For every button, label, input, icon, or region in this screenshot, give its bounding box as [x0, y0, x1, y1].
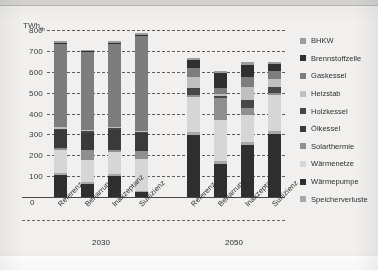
- y-tick-label-500: 500: [29, 88, 43, 97]
- bar-inakzeptanz-2050: [241, 62, 254, 197]
- legend-swatch-icon: [300, 196, 306, 202]
- bar-segment-solarthermie: [135, 151, 148, 159]
- bar-segment-heizstab: [268, 79, 281, 86]
- group-label-2050: 2050: [187, 238, 281, 247]
- bar-segment-wrmenetze: [54, 150, 67, 173]
- legend-label: Brennstoffzelle: [311, 54, 361, 63]
- bar-segment-lkessel: [108, 130, 121, 150]
- bar-segment-wrmenetze: [268, 95, 281, 132]
- bar-suffizienz-2030: [135, 33, 148, 197]
- bar-segment-wrmepumpe: [241, 145, 254, 197]
- legend-label: Solarthermie: [311, 142, 354, 151]
- legend-swatch-icon: [300, 143, 306, 149]
- legend-swatch-icon: [300, 91, 306, 97]
- bar-segment-gaskessel: [241, 77, 254, 86]
- legend-item-heizstab[interactable]: Heizstab: [300, 85, 376, 103]
- legend-label: Speicherverluste: [311, 195, 368, 204]
- bar-segment-wrmepumpe: [187, 135, 200, 197]
- legend-item-wrmepumpe[interactable]: Wärmepumpe: [300, 173, 376, 191]
- bar-beharrung-2050: [214, 71, 227, 197]
- y-tick-label-100: 100: [29, 172, 43, 181]
- bar-segment-wrmenetze: [81, 160, 94, 183]
- legend-item-wrmenetze[interactable]: Wärmenetze: [300, 155, 376, 173]
- legend-item-brennstoffzelle[interactable]: Brennstoffzelle: [300, 50, 376, 68]
- bar-segment-gaskessel: [135, 36, 148, 131]
- bar-segment-solarthermie: [81, 150, 94, 160]
- legend-swatch-icon: [300, 108, 306, 114]
- bar-segment-gaskessel: [187, 68, 200, 76]
- y-tick-label-200: 200: [29, 151, 43, 160]
- y-tick-label-600: 600: [29, 67, 43, 76]
- bar-segment-brennstoffzelle: [241, 65, 254, 78]
- y-tick-label-700: 700: [29, 46, 43, 55]
- bar-segment-heizstab: [187, 77, 200, 88]
- legend-swatch-icon: [300, 161, 306, 167]
- legend-swatch-icon: [300, 38, 306, 44]
- bar-segment-holzkessel: [241, 100, 254, 108]
- legend-item-solarthermie[interactable]: Solarthermie: [300, 138, 376, 156]
- page-bottom-margin: [0, 256, 378, 270]
- bar-referenz-2050: [187, 58, 200, 197]
- bar-segment-wrmenetze: [214, 120, 227, 161]
- legend-label: Wärmepumpe: [311, 177, 359, 186]
- bar-segment-wrmenetze: [241, 115, 254, 142]
- bar-inakzeptanz-2030: [108, 41, 121, 197]
- bar-segment-solarthermie: [214, 98, 227, 120]
- legend-swatch-icon: [300, 179, 306, 185]
- bar-segment-gaskessel: [108, 44, 121, 128]
- bar-segment-holzkessel: [187, 88, 200, 95]
- legend-label: BHKW: [311, 36, 334, 45]
- y-tick-label-300: 300: [29, 130, 43, 139]
- bar-segment-gaskessel: [81, 52, 94, 130]
- chart-figure: TWhth 100200300400500600700800 0 Referen…: [0, 6, 378, 256]
- legend-item-lkessel[interactable]: Ölkessel: [300, 120, 376, 138]
- legend-item-speicherverluste[interactable]: Speicherverluste: [300, 190, 376, 208]
- plot-area: 100200300400500600700800: [47, 30, 285, 197]
- bar-segment-heizstab: [241, 87, 254, 101]
- legend-item-bhkw[interactable]: BHKW: [300, 32, 376, 50]
- y-axis-zero-label: 0: [30, 198, 34, 207]
- bar-segment-wrmenetze: [108, 152, 121, 175]
- bar-segment-lkessel: [54, 130, 67, 148]
- legend-label: Holzkessel: [311, 107, 348, 116]
- x-axis-separator: [22, 220, 285, 221]
- bar-segment-gaskessel: [268, 71, 281, 79]
- bar-segment-lkessel: [135, 133, 148, 151]
- bar-segment-lkessel: [81, 133, 94, 150]
- y-tick-label-800: 800: [29, 26, 43, 35]
- y-tick-label-400: 400: [29, 109, 43, 118]
- legend-label: Heizstab: [311, 89, 341, 98]
- scanned-page: TWhth 100200300400500600700800 0 Referen…: [0, 0, 378, 270]
- bar-segment-wrmenetze: [187, 97, 200, 132]
- legend-swatch-icon: [300, 55, 306, 61]
- bar-segment-brennstoffzelle: [268, 64, 281, 71]
- legend-item-holzkessel[interactable]: Holzkessel: [300, 102, 376, 120]
- gridline-800: [47, 30, 285, 31]
- legend-label: Ölkessel: [311, 124, 340, 133]
- bar-referenz-2030: [54, 41, 67, 197]
- legend-item-gaskessel[interactable]: Gaskessel: [300, 67, 376, 85]
- chart-legend: BHKWBrennstoffzelleGaskesselHeizstabHolz…: [300, 32, 376, 208]
- bar-segment-gaskessel: [54, 44, 67, 128]
- legend-label: Wärmenetze: [311, 159, 354, 168]
- bar-segment-brennstoffzelle: [214, 73, 227, 88]
- group-label-2030: 2030: [54, 238, 148, 247]
- legend-swatch-icon: [300, 126, 306, 132]
- legend-label: Gaskessel: [311, 71, 346, 80]
- bar-beharrung-2030: [81, 50, 94, 197]
- legend-swatch-icon: [300, 73, 306, 79]
- bar-segment-brennstoffzelle: [187, 60, 200, 68]
